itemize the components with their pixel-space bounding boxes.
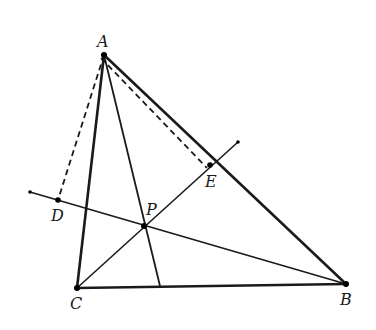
line-endpoint-left: [28, 190, 32, 194]
label-e: E: [205, 174, 217, 190]
dashed-ae: [101, 58, 207, 168]
point-c: [74, 285, 80, 291]
side-cb: [77, 284, 346, 288]
label-p: P: [146, 202, 157, 218]
line-endpoint-right: [236, 140, 240, 144]
point-e: [207, 162, 213, 168]
geometry-diagram: A B C P D E: [0, 0, 376, 330]
dashed-ad: [58, 55, 104, 200]
point-b: [343, 281, 349, 287]
diagram-svg: [0, 0, 376, 330]
label-a: A: [97, 34, 109, 50]
label-c: C: [70, 296, 82, 312]
side-ac: [77, 55, 104, 288]
side-ab: [104, 55, 346, 284]
point-d: [55, 197, 61, 203]
line-cpe: [77, 142, 238, 288]
point-p: [141, 223, 147, 229]
label-d: D: [51, 208, 64, 224]
label-b: B: [340, 292, 352, 308]
point-a: [101, 52, 107, 58]
